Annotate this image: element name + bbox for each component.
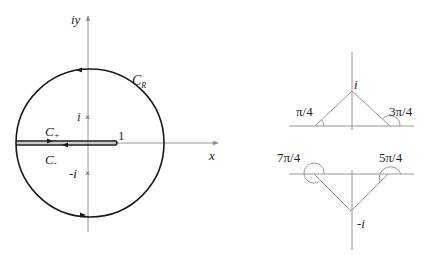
upper-left-ray	[315, 91, 352, 126]
pole-lower-label: -i	[69, 166, 77, 181]
lower-left-ray	[314, 174, 351, 211]
upper-point-label: i	[354, 77, 358, 92]
angle-diagram-lower: -i 7π/4 5π/4	[277, 150, 414, 250]
cminus-label: C-	[45, 152, 57, 168]
branch-end-label: 1	[118, 128, 125, 143]
lower-point-label: -i	[357, 216, 365, 231]
angle-arc-7pi4	[304, 163, 324, 183]
pole-upper-marker: ×	[85, 112, 90, 122]
upper-right-ray	[352, 91, 390, 126]
angle-label-3pi4: 3π/4	[389, 104, 413, 119]
angle-label-5pi4: 5π/4	[379, 150, 403, 165]
angle-arc-pi4	[322, 120, 325, 126]
arrow-top-icon	[76, 68, 82, 73]
y-axis-label: iy	[71, 12, 81, 27]
diagram-canvas: iy x CR C+ C- i × -i × 1 i π/4 3π/4 -i 7…	[0, 0, 433, 261]
angle-label-pi4: π/4	[296, 104, 313, 119]
angle-diagram-upper: i π/4 3π/4	[289, 52, 414, 130]
pole-upper-label: i	[77, 109, 81, 124]
lower-right-ray	[351, 174, 388, 211]
pole-lower-marker: ×	[85, 168, 90, 178]
cr-label: CR	[132, 73, 146, 90]
angle-label-7pi4: 7π/4	[277, 150, 301, 165]
contour-diagram: iy x CR C+ C- i × -i × 1	[15, 12, 218, 232]
x-axis-label: x	[208, 148, 215, 163]
cplus-label: C+	[45, 124, 60, 140]
